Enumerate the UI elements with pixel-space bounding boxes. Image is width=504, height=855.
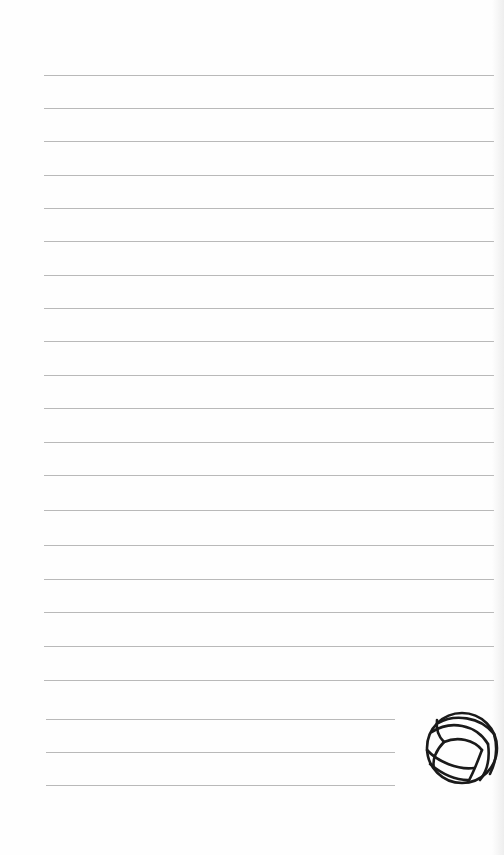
ruled-line (44, 442, 494, 443)
ruled-line (44, 646, 494, 647)
ruled-line (44, 408, 494, 409)
ruled-line (44, 510, 494, 511)
ruled-line (44, 208, 494, 209)
ruled-line (44, 341, 494, 342)
ruled-line (44, 375, 494, 376)
notepaper (0, 0, 504, 855)
ruled-line (44, 141, 494, 142)
ruled-line-short (46, 719, 395, 720)
ruled-line (44, 275, 494, 276)
ruled-line (44, 175, 494, 176)
ruled-line (44, 612, 494, 613)
volleyball-icon (424, 706, 504, 786)
ruled-line-short (46, 785, 395, 786)
ruled-line (44, 545, 494, 546)
ruled-line-short (46, 752, 395, 753)
ruled-line (44, 579, 494, 580)
ruled-line (44, 680, 494, 681)
ruled-line (44, 108, 494, 109)
ruled-line (44, 308, 494, 309)
ruled-line (44, 475, 494, 476)
ruled-line (44, 75, 494, 76)
ruled-line (44, 241, 494, 242)
